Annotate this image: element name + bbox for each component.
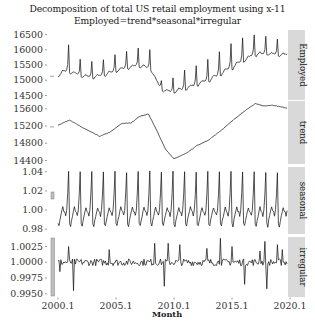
panel-irregular: 0.99500.99751.00001.0025irregular bbox=[10, 237, 307, 299]
x-tick-label: 2015.1 bbox=[216, 300, 249, 311]
y-tick-label: 15600 bbox=[13, 103, 43, 114]
y-tick-label: 14500 bbox=[13, 90, 43, 101]
panels: 1450015000155001600016500Employed1440014… bbox=[10, 29, 307, 299]
facet-strip-label: irregular bbox=[298, 247, 308, 287]
decomposition-chart: 1450015000155001600016500Employed1440014… bbox=[0, 0, 315, 332]
y-tick-label: 16000 bbox=[13, 44, 43, 55]
x-tick-label: 2005.1 bbox=[100, 300, 133, 311]
panel-seasonal: 0.981.001.021.04seasonal bbox=[22, 166, 307, 234]
y-tick-label: 0.9950 bbox=[10, 288, 43, 299]
y-tick-label: 15000 bbox=[13, 74, 43, 85]
range-bar bbox=[51, 192, 54, 199]
panel-employed: 1450015000155001600016500Employed bbox=[13, 29, 307, 101]
y-tick-label: 15200 bbox=[13, 120, 43, 131]
y-tick-label: 1.0025 bbox=[10, 241, 43, 252]
x-tick-label: 2000.1 bbox=[42, 300, 75, 311]
x-tick-label: 2020.1 bbox=[274, 300, 307, 311]
panel-background bbox=[48, 167, 285, 234]
panel-background bbox=[48, 237, 285, 297]
facet-strip-label: seasonal bbox=[298, 182, 308, 220]
y-tick-label: 1.0000 bbox=[10, 256, 43, 267]
y-tick-label: 1.04 bbox=[22, 166, 43, 177]
y-tick-label: 0.98 bbox=[22, 223, 43, 234]
range-bar bbox=[51, 238, 55, 296]
y-tick-label: 14400 bbox=[13, 155, 43, 166]
x-axis-label: Month bbox=[152, 309, 182, 319]
y-tick-label: 15500 bbox=[13, 59, 43, 70]
y-tick-label: 14800 bbox=[13, 137, 43, 148]
y-tick-label: 1.02 bbox=[22, 185, 43, 196]
facet-strip-label: Employed bbox=[298, 43, 308, 87]
y-tick-label: 0.9975 bbox=[10, 272, 43, 283]
y-tick-label: 16500 bbox=[13, 29, 43, 40]
facet-strip-label: trend bbox=[298, 121, 308, 145]
y-tick-label: 1.00 bbox=[22, 204, 43, 215]
panel-trend: 14400148001520015600trend bbox=[13, 101, 307, 166]
panel-background bbox=[48, 101, 285, 164]
